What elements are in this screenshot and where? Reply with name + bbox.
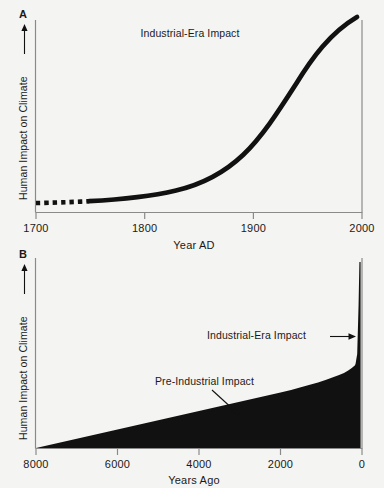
panel-a: A Human Impact on Climate (0, 0, 384, 244)
panel-b-industrial-era-spike (354, 262, 361, 448)
panel-a-x-tick-1900: 1900 (233, 222, 273, 234)
panel-b-annotation-industrial-era: Industrial-Era Impact (207, 329, 306, 341)
panel-b: B Human Impact on Climate (0, 244, 384, 488)
panel-b-x-tick-0: 0 (342, 458, 382, 470)
panel-b-x-tick-2000: 2000 (261, 458, 301, 470)
panel-b-x-axis-title: Years Ago (149, 474, 239, 486)
panel-a-curve-dashed-segment (36, 201, 89, 203)
panel-a-x-tick-1800: 1800 (125, 222, 165, 234)
panel-a-x-ticks (36, 213, 362, 220)
panel-b-x-tick-8000: 8000 (16, 458, 56, 470)
figure-root: A Human Impact on Climate (0, 0, 384, 488)
panel-b-x-tick-4000: 4000 (179, 458, 219, 470)
panel-b-industrial-era-arrow-icon (330, 333, 356, 339)
panel-b-x-tick-6000: 6000 (98, 458, 138, 470)
panel-a-x-tick-2000: 2000 (342, 222, 382, 234)
panel-b-plot (0, 244, 384, 488)
panel-a-x-tick-1700: 1700 (16, 222, 56, 234)
panel-a-annotation-industrial-era: Industrial-Era Impact (113, 27, 267, 39)
panel-a-curve-solid-segment (89, 17, 357, 201)
panel-b-annotation-preindustrial: Pre-Industrial Impact (155, 375, 254, 387)
panel-b-x-ticks (36, 449, 362, 456)
